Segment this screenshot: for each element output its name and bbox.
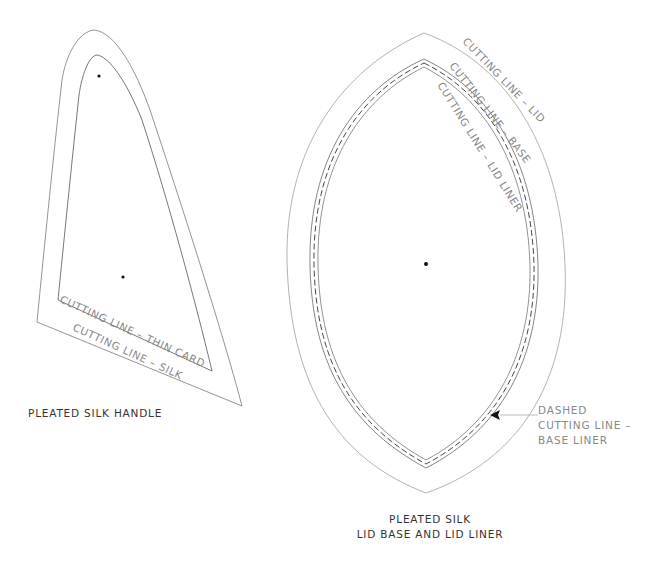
- lid-pattern: CUTTING LINE – LID CUTTING LINE – BASE C…: [287, 33, 565, 493]
- annotation-line-2: CUTTING LINE –: [538, 418, 631, 433]
- annotation-line-1: DASHED: [538, 403, 631, 418]
- handle-dot-top: [97, 74, 100, 77]
- lid-caption-line-2: LID BASE AND LID LINER: [330, 527, 530, 542]
- lid-center-dot: [424, 262, 428, 266]
- handle-pattern: CUTTING LINE – THIN CARD CUTTING LINE – …: [37, 30, 242, 406]
- annotation-line-3: BASE LINER: [538, 433, 631, 448]
- lid-caption: PLEATED SILK LID BASE AND LID LINER: [330, 512, 530, 542]
- base-liner-annotation: DASHED CUTTING LINE – BASE LINER: [538, 403, 631, 448]
- handle-dot-center: [121, 275, 124, 278]
- pattern-diagram: CUTTING LINE – THIN CARD CUTTING LINE – …: [0, 0, 654, 561]
- lid-caption-line-1: PLEATED SILK: [330, 512, 530, 527]
- handle-caption: PLEATED SILK HANDLE: [28, 406, 162, 421]
